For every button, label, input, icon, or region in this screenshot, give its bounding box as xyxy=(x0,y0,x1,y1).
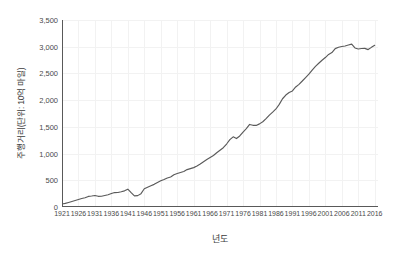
x-axis-tick-label: 1936 xyxy=(104,210,120,217)
x-axis-tick-label: 2001 xyxy=(318,210,334,217)
line-chart-svg xyxy=(62,20,378,207)
y-axis-tick-label: 2,000 xyxy=(22,96,58,105)
x-axis-tick-label: 1931 xyxy=(87,210,103,217)
vertical-gridlines xyxy=(79,20,376,207)
x-axis-tick-label: 1956 xyxy=(169,210,185,217)
y-axis-tick-label: 3,000 xyxy=(22,42,58,51)
plot-area xyxy=(62,20,378,207)
y-axis-tick-label: 0 xyxy=(22,203,58,212)
x-axis-tick-label: 1946 xyxy=(136,210,152,217)
x-axis-tick-label: 1961 xyxy=(186,210,202,217)
x-axis-tick-label: 1986 xyxy=(268,210,284,217)
y-axis-tick-label: 1,500 xyxy=(22,122,58,131)
x-axis-tick-label: 1976 xyxy=(235,210,251,217)
x-axis-tick-label: 1966 xyxy=(202,210,218,217)
y-axis-tick-label: 500 xyxy=(22,176,58,185)
x-axis-tick-label: 1981 xyxy=(252,210,268,217)
y-axis-tick-label: 1,000 xyxy=(22,149,58,158)
chart-container: 주행거리(단위: 10억 마일) 3,5003,0002,5002,0001,5… xyxy=(0,0,395,255)
x-axis-tick-label: 1921 xyxy=(54,210,70,217)
y-axis-tick-labels: 3,5003,0002,5002,0001,5001,0005000 xyxy=(22,0,58,255)
horizontal-gridlines xyxy=(62,21,378,181)
x-axis-tick-labels: 1921192619311936194119461951195619611966… xyxy=(62,210,378,224)
x-axis-tick-label: 2006 xyxy=(334,210,350,217)
x-axis-tick-label: 1951 xyxy=(153,210,169,217)
x-axis-title: 년도 xyxy=(62,232,378,245)
x-axis-tick-label: 2016 xyxy=(367,210,383,217)
y-axis-tick-label: 2,500 xyxy=(22,69,58,78)
y-axis-tick-label: 3,500 xyxy=(22,16,58,25)
x-axis-tick-label: 2011 xyxy=(351,210,366,217)
x-axis-tick-label: 1996 xyxy=(301,210,317,217)
x-axis-tick-label: 1926 xyxy=(71,210,87,217)
x-axis-tick-label: 1971 xyxy=(219,210,235,217)
x-axis-tick-label: 1941 xyxy=(120,210,136,217)
x-axis-tick-label: 1991 xyxy=(285,210,301,217)
